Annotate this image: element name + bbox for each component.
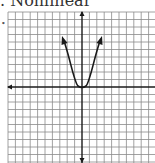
coordinate-graph [0,0,155,163]
right-arrow-head-icon [97,36,103,45]
left-arrow-head-icon [62,36,68,45]
